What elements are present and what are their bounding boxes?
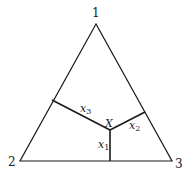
point-label-x: X (104, 117, 114, 130)
vertex-label-2: 2 (8, 155, 16, 169)
triangle (20, 24, 172, 161)
distance-label-x1: x1 (98, 138, 109, 152)
distance-label-x2: x2 (129, 119, 140, 133)
vertex-label-1: 1 (92, 6, 100, 20)
vertex-label-3: 3 (175, 157, 183, 171)
ternary-diagram: 1 2 3 X x3 x2 x1 (0, 0, 187, 175)
distance-label-x3: x3 (80, 102, 91, 116)
